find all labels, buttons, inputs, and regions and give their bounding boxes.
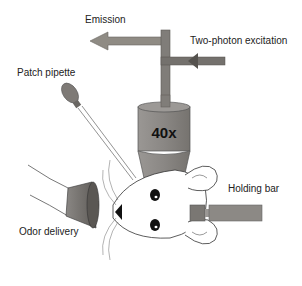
objective-lens: 40x <box>138 95 190 181</box>
patch-pipette <box>58 80 136 180</box>
excitation-arrow <box>161 53 225 69</box>
holding-bar <box>190 205 262 221</box>
two-photon-setup-diagram: 40x <box>0 0 302 286</box>
label-holding-bar: Holding bar <box>228 183 280 194</box>
label-emission: Emission <box>85 14 126 25</box>
label-two-photon-excitation: Two-photon excitation <box>190 35 287 46</box>
objective-magnification: 40x <box>151 124 177 141</box>
odor-delivery-nozzle <box>28 165 99 228</box>
label-odor-delivery: Odor delivery <box>19 226 78 237</box>
label-patch-pipette: Patch pipette <box>17 67 76 78</box>
emission-arrow <box>90 32 166 50</box>
